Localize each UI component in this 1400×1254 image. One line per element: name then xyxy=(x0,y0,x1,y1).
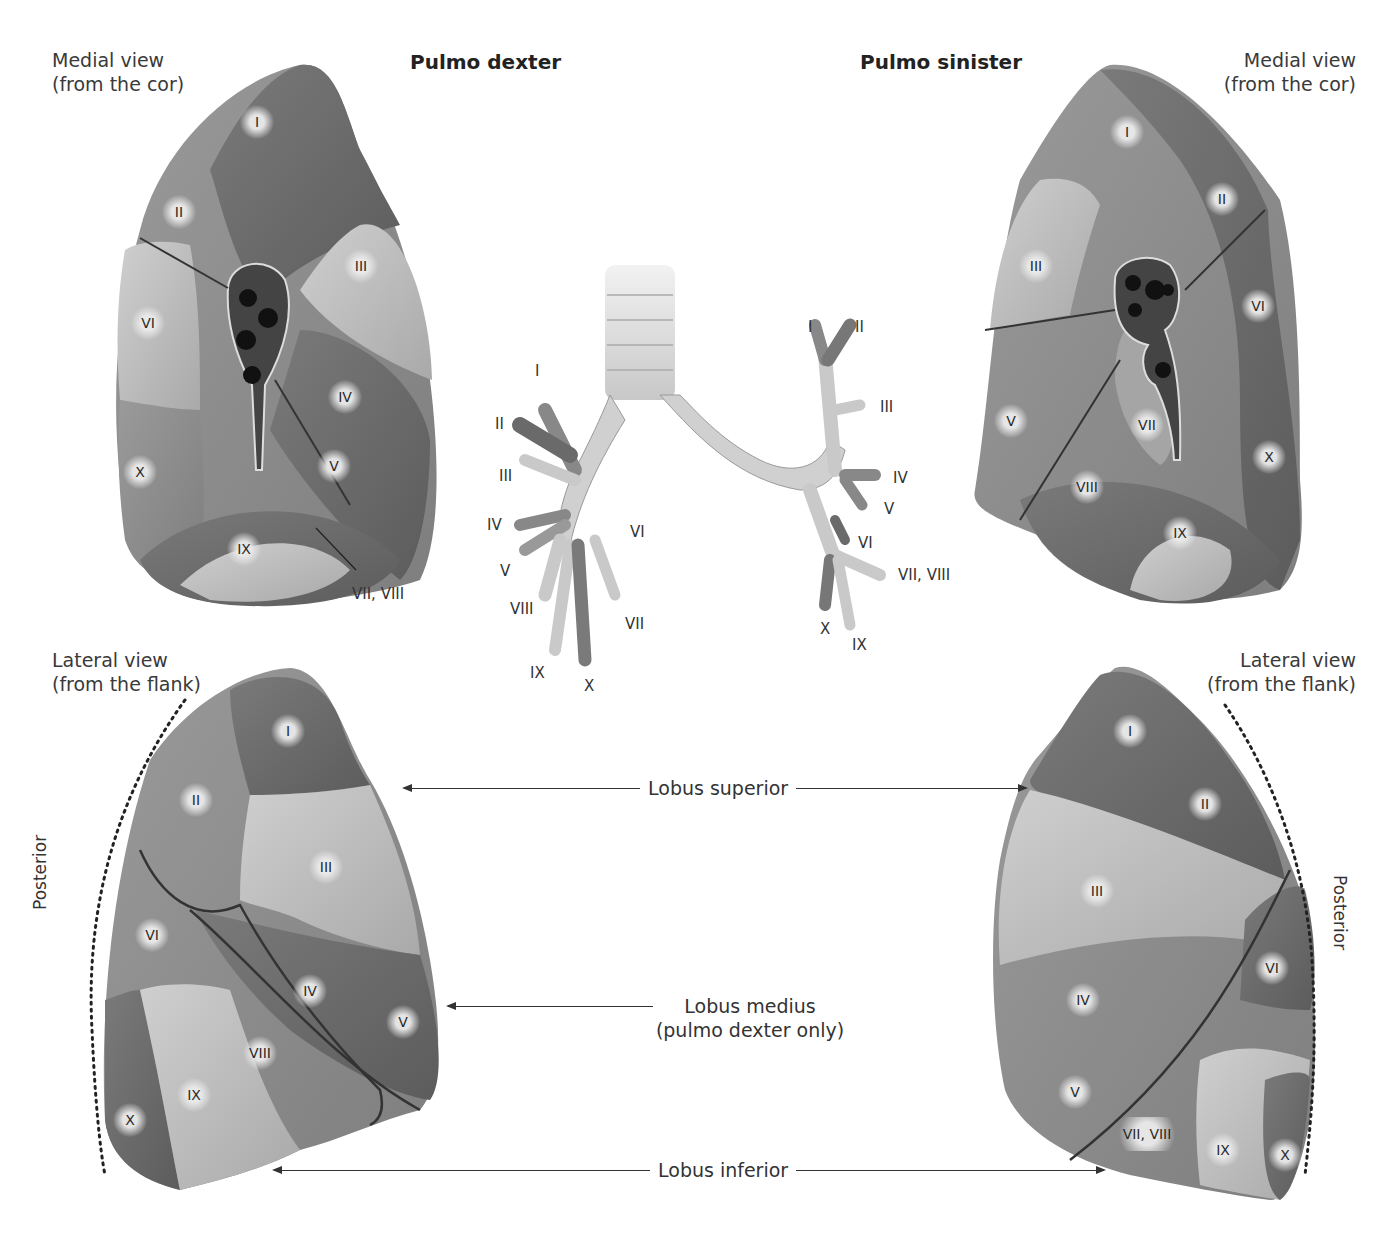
segment-label: IX xyxy=(1206,1133,1240,1167)
segment-label: VII xyxy=(1130,408,1164,442)
segment-label: II xyxy=(1188,787,1222,821)
segment-label: VII, VIII xyxy=(1112,1117,1182,1151)
bronchial-tree xyxy=(520,265,880,660)
sinister-medial-lung xyxy=(974,65,1301,604)
bronchus-label: VIII xyxy=(510,600,534,618)
view-label-lateral-dexter: Lateral view (from the flank) xyxy=(52,648,201,696)
bronchus-label: IX xyxy=(530,664,545,682)
bronchus-label: II xyxy=(855,318,864,336)
bronchus-label: I xyxy=(808,318,812,336)
bronchus-label: VI xyxy=(630,523,645,541)
view-label-lateral-sinister: Lateral view (from the flank) xyxy=(1207,648,1356,696)
segment-label: I xyxy=(1110,115,1144,149)
bronchus-label: V xyxy=(884,500,894,518)
segment-label: X xyxy=(1252,440,1286,474)
bronchus-label: III xyxy=(499,467,512,485)
title-pulmo-dexter: Pulmo dexter xyxy=(410,50,561,74)
illustration-layer xyxy=(0,0,1400,1254)
segment-label: I xyxy=(1113,714,1147,748)
segment-label: X xyxy=(123,455,157,489)
segment-callout-label: VII, VIII xyxy=(352,585,404,603)
segment-label: II xyxy=(179,783,213,817)
bronchus-label: V xyxy=(500,562,510,580)
posterior-label-left: Posterior xyxy=(30,835,50,910)
segment-label: VI xyxy=(135,918,169,952)
segment-label: III xyxy=(1080,874,1114,908)
segment-label: VI xyxy=(1241,289,1275,323)
title-pulmo-sinister: Pulmo sinister xyxy=(860,50,1022,74)
segment-label: IV xyxy=(293,974,327,1008)
segment-label: IV xyxy=(1066,983,1100,1017)
segment-label: VI xyxy=(1255,951,1289,985)
lobus-inferior-label: Lobus inferior xyxy=(650,1158,796,1182)
segment-label: IV xyxy=(328,380,362,414)
bronchus-label: VII xyxy=(625,615,644,633)
lobus-superior-label: Lobus superior xyxy=(640,776,796,800)
lobus-medius-label: Lobus medius (pulmo dexter only) xyxy=(632,994,868,1042)
segment-label: II xyxy=(162,195,196,229)
segment-label: V xyxy=(317,449,351,483)
segment-label: IX xyxy=(177,1078,211,1112)
segment-label: X xyxy=(1268,1138,1302,1172)
segment-label: III xyxy=(309,850,343,884)
segment-label: V xyxy=(994,404,1028,438)
segment-label: X xyxy=(113,1103,147,1137)
segment-label: III xyxy=(1019,249,1053,283)
segment-label: V xyxy=(386,1005,420,1039)
segment-label: VI xyxy=(131,306,165,340)
segment-label: IX xyxy=(227,532,261,566)
segment-label: II xyxy=(1205,182,1239,216)
bronchus-label: VII, VIII xyxy=(898,566,950,584)
segment-label: VIII xyxy=(1070,470,1104,504)
bronchus-label: X xyxy=(820,620,830,638)
bronchus-label: VI xyxy=(858,534,873,552)
view-label-medial-dexter: Medial view (from the cor) xyxy=(52,48,184,96)
segment-label: V xyxy=(1058,1075,1092,1109)
segment-label: IX xyxy=(1163,516,1197,550)
segment-label: I xyxy=(271,714,305,748)
bronchus-label: III xyxy=(880,398,893,416)
bronchus-label: IV xyxy=(893,469,908,487)
bronchus-label: IV xyxy=(487,516,502,534)
bronchus-label: IX xyxy=(852,636,867,654)
dexter-medial-lung xyxy=(116,65,436,607)
lobus-medius-arrow xyxy=(448,1006,653,1007)
posterior-label-right: Posterior xyxy=(1330,875,1350,950)
bronchus-label: I xyxy=(535,362,539,380)
segment-label: III xyxy=(344,249,378,283)
bronchus-label: II xyxy=(495,415,504,433)
bronchus-label: X xyxy=(584,677,594,695)
segment-label: I xyxy=(240,105,274,139)
view-label-medial-sinister: Medial view (from the cor) xyxy=(1224,48,1356,96)
segment-label: VIII xyxy=(243,1036,277,1070)
